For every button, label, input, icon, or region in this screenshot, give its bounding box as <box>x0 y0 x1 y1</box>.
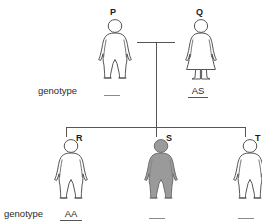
descent-line <box>156 42 157 127</box>
individual-figure-r <box>50 136 92 206</box>
individual-figure-s <box>140 136 182 206</box>
individual-figure-p <box>94 18 136 84</box>
genotype-value-r: AA <box>60 209 82 221</box>
genotype-value-q: AS <box>188 86 208 98</box>
genotype-blank-s[interactable] <box>149 218 165 219</box>
genotype-blank-t[interactable] <box>238 218 254 219</box>
individual-figure-t <box>229 136 262 206</box>
genotype-label-parents: genotype <box>38 86 77 96</box>
individual-label-q: Q <box>196 8 203 17</box>
individual-label-p: P <box>110 8 116 17</box>
pedigree-diagram: P Q <box>0 0 262 222</box>
genotype-blank-p[interactable] <box>104 95 120 96</box>
individual-figure-q <box>180 18 222 84</box>
genotype-label-children: genotype <box>4 209 43 219</box>
